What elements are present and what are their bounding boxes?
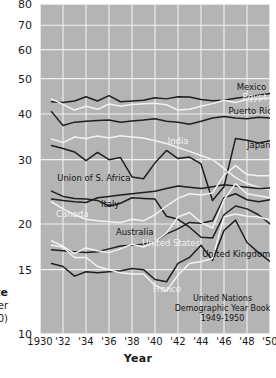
x-tick-label: '42 <box>170 336 185 348</box>
series-label: Australia <box>116 228 154 237</box>
y-tick-label: 40 <box>0 109 32 120</box>
x-tick-label: 1930 <box>27 336 52 348</box>
y-tick-label: 20 <box>0 219 32 230</box>
x-axis-title: Year <box>0 352 276 365</box>
source-note-line: Demographic Year Book <box>160 304 270 314</box>
x-tick-label: '38 <box>124 336 139 348</box>
x-tick-label: '44 <box>193 336 208 348</box>
series-label: Union of S. Africa <box>57 174 130 183</box>
x-tick-label: '50 <box>262 336 276 348</box>
y-axis-title-units: (per 1000) <box>0 300 8 324</box>
source-note-line: 1949-1950 <box>160 314 270 324</box>
series-label: India <box>168 137 189 146</box>
series-label: United Kingdom <box>202 250 270 259</box>
y-tick-label: 60 <box>0 45 32 56</box>
x-tick-label: '32 <box>55 336 70 348</box>
series-line <box>52 94 271 103</box>
series-line <box>52 185 271 203</box>
plot-area: United NationsDemographic Year Book1949-… <box>40 4 270 334</box>
series-label: Puerto Rico <box>229 107 270 116</box>
y-tick-label: 30 <box>0 155 32 166</box>
series-label: Canada <box>56 210 88 219</box>
x-tick-label: '48 <box>239 336 254 348</box>
series-label: Japan <box>247 141 270 150</box>
series-label: Mexico <box>237 83 267 92</box>
x-tick-label: '36 <box>101 336 116 348</box>
x-tick-label: '46 <box>216 336 231 348</box>
y-tick-label: 70 <box>0 20 32 31</box>
y-axis: 807060504030201510 <box>0 4 36 334</box>
series-line <box>52 138 271 200</box>
x-tick-label: '40 <box>147 336 162 348</box>
y-axis-title-main: Rate <box>0 286 8 299</box>
series-label: France <box>153 285 181 294</box>
source-note-line: United Nations <box>160 294 270 304</box>
series-label: Italy <box>101 200 119 209</box>
series-label: Egypt <box>242 93 267 102</box>
y-axis-title: Rate (per 1000) <box>0 286 8 325</box>
chart-figure: 807060504030201510 United NationsDemogra… <box>0 0 276 378</box>
y-tick-label: 15 <box>0 265 32 276</box>
x-tick-label: '34 <box>78 336 93 348</box>
series-label: United States <box>142 239 200 248</box>
source-note: United NationsDemographic Year Book1949-… <box>160 294 270 324</box>
y-tick-label: 50 <box>0 74 32 85</box>
y-tick-label: 80 <box>0 0 32 10</box>
x-axis: 1930'32'34'36'38'40'42'44'46'48'50 <box>40 336 276 352</box>
